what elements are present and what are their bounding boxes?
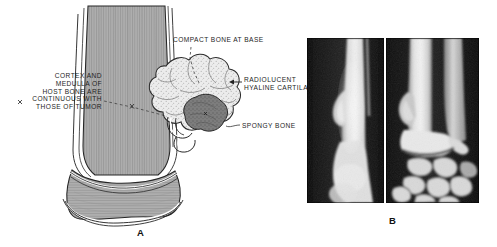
radiograph-lateral <box>307 38 384 203</box>
panel-b-radiographs <box>307 38 479 203</box>
label-compact-bone-at-base: COMPACT BONE AT BASE <box>173 36 264 44</box>
figure-container: CORTEX AND MEDULLA OF HOST BONE ARE CONT… <box>0 0 497 247</box>
leader-spongy <box>226 125 240 127</box>
panel-letter-a: A <box>137 227 144 238</box>
radiograph-anteroposterior <box>386 38 479 203</box>
panel-letter-b: B <box>389 215 396 226</box>
bone-epiphysis <box>63 170 183 226</box>
label-cortex-and-medulla: CORTEX AND MEDULLA OF HOST BONE ARE CONT… <box>16 72 102 111</box>
panel-a-illustration: CORTEX AND MEDULLA OF HOST BONE ARE CONT… <box>0 0 300 247</box>
label-spongy-bone: SPONGY BONE <box>242 122 296 130</box>
